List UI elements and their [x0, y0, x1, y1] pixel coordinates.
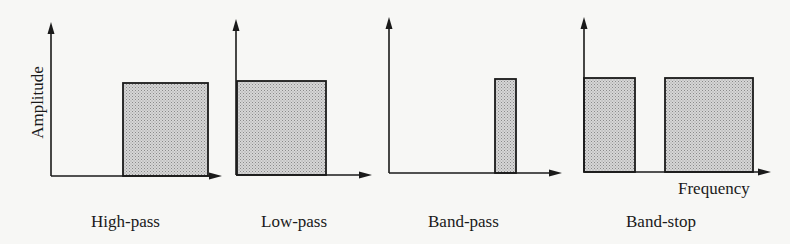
- x-axis-arrow-icon: [549, 170, 562, 177]
- x-axis-label: Frequency: [678, 180, 750, 197]
- x-axis-arrow-icon: [359, 172, 372, 179]
- passband-low-pass-0: [237, 81, 326, 175]
- filter-types-diagram: [0, 0, 790, 244]
- x-axis-arrow-icon: [758, 169, 771, 176]
- panel-label-low-pass: Low-pass: [261, 213, 327, 230]
- y-axis-label: Amplitude: [29, 59, 46, 147]
- panel-label-band-pass: Band-pass: [428, 213, 499, 230]
- passband-band-stop-1: [665, 78, 753, 172]
- y-axis-arrow-icon: [386, 17, 393, 29]
- y-axis-arrow-icon: [48, 22, 55, 34]
- x-axis-arrow-icon: [209, 173, 222, 180]
- passband-high-pass-0: [123, 83, 208, 176]
- passband-band-stop-0: [584, 78, 635, 172]
- panel-label-high-pass: High-pass: [91, 213, 160, 230]
- y-axis-arrow-icon: [581, 17, 588, 29]
- panel-band-stop: [581, 17, 772, 176]
- panel-label-band-stop: Band-stop: [626, 213, 696, 230]
- panel-high-pass: [48, 22, 223, 180]
- panel-band-pass: [386, 17, 563, 177]
- panel-low-pass: [233, 19, 373, 179]
- y-axis-arrow-icon: [233, 19, 240, 31]
- passband-band-pass-0: [495, 79, 516, 173]
